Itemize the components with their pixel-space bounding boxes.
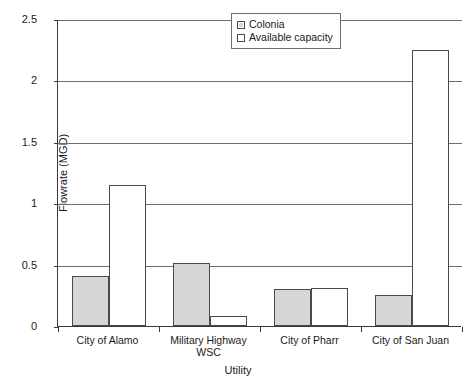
legend-swatch-colonia-icon xyxy=(237,21,245,29)
x-axis-tick xyxy=(361,327,362,332)
x-axis-category-label: Military HighwayWSC xyxy=(158,334,259,358)
x-axis-category-line: WSC xyxy=(158,346,259,358)
y-axis-tick xyxy=(54,266,58,267)
y-axis-tick-label: 1.5 xyxy=(0,137,37,148)
x-axis-tick xyxy=(159,327,160,332)
bar-available-capacity xyxy=(210,316,247,326)
x-axis-category-label: City of Pharr xyxy=(259,334,360,346)
y-axis-tick-label: 0 xyxy=(0,321,37,332)
x-axis-tick xyxy=(260,327,261,332)
x-axis-tick xyxy=(58,327,59,332)
bar-available-capacity xyxy=(412,50,449,326)
bar-available-capacity xyxy=(311,288,348,326)
bar-colonia xyxy=(375,295,412,326)
chart-legend: Colonia Available capacity xyxy=(231,13,341,49)
legend-label-colonia: Colonia xyxy=(249,19,285,30)
y-axis-tick xyxy=(54,143,58,144)
x-axis-category-line: City of Alamo xyxy=(57,334,158,346)
bar-chart: Flowrate (MGD) 00.511.522.5 Utility Colo… xyxy=(0,0,476,384)
bar-available-capacity xyxy=(109,185,146,326)
x-axis-category-line: City of Pharr xyxy=(259,334,360,346)
y-axis-tick xyxy=(54,20,58,21)
legend-item-available-capacity: Available capacity xyxy=(237,31,333,44)
plot-area: Flowrate (MGD) 00.511.522.5 xyxy=(57,20,461,327)
x-axis-category-label: City of Alamo xyxy=(57,334,158,346)
y-axis-tick-label: 0.5 xyxy=(0,260,37,271)
bar-colonia xyxy=(72,276,109,326)
bar-colonia xyxy=(274,289,311,326)
bar-colonia xyxy=(173,263,210,326)
y-axis-tick xyxy=(54,81,58,82)
gridline xyxy=(58,81,462,82)
y-axis-tick-label: 2.5 xyxy=(0,14,37,25)
y-axis-tick-label: 1 xyxy=(0,198,37,209)
legend-swatch-available-capacity-icon xyxy=(237,34,245,42)
legend-item-colonia: Colonia xyxy=(237,18,333,31)
x-axis-category-label: City of San Juan xyxy=(360,334,461,346)
gridline xyxy=(58,143,462,144)
y-axis-title: Flowrate (MGD) xyxy=(57,134,69,212)
y-axis-tick-label: 2 xyxy=(0,75,37,86)
x-axis-tick xyxy=(462,327,463,332)
legend-label-available-capacity: Available capacity xyxy=(249,32,333,43)
x-axis-category-line: City of San Juan xyxy=(360,334,461,346)
y-axis-tick xyxy=(54,204,58,205)
x-axis-title: Utility xyxy=(0,364,476,376)
x-axis-category-line: Military Highway xyxy=(158,334,259,346)
